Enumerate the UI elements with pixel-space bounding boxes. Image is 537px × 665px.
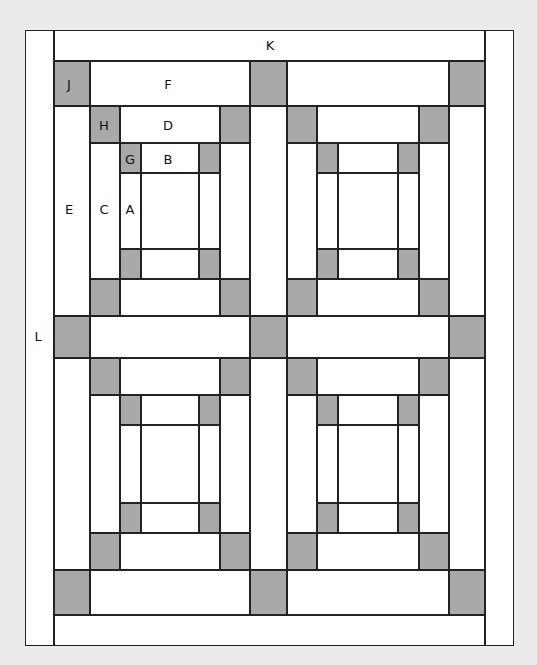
corner-g	[199, 395, 220, 425]
corner-h	[287, 358, 317, 395]
strip-c	[287, 395, 317, 533]
cornerstone-j	[449, 570, 485, 615]
corner-g	[199, 503, 220, 533]
corner-g	[120, 503, 141, 533]
strip-a	[199, 425, 220, 503]
strip-d	[120, 358, 220, 395]
strip-c	[287, 143, 317, 279]
cornerstone-j	[250, 570, 287, 615]
label-g: G	[125, 153, 135, 166]
center-square	[338, 173, 398, 249]
sashing-f	[90, 570, 250, 615]
cornerstone-j	[250, 316, 287, 358]
sashing-f	[287, 61, 449, 106]
sashing-e	[449, 358, 485, 570]
corner-g	[398, 249, 419, 279]
strip-a	[317, 173, 338, 249]
strip-c	[220, 395, 250, 533]
corner-g	[398, 395, 419, 425]
label-e: E	[65, 203, 73, 216]
corner-g	[199, 249, 220, 279]
strip-b	[338, 395, 398, 425]
strip-b	[141, 395, 199, 425]
cornerstone-j	[449, 316, 485, 358]
cornerstone-j	[449, 61, 485, 106]
strip-c	[419, 395, 449, 533]
corner-h	[419, 358, 449, 395]
border-l-right	[485, 30, 514, 646]
label-c: C	[99, 203, 108, 216]
strip-a	[317, 425, 338, 503]
cornerstone-j	[54, 570, 90, 615]
corner-h	[220, 106, 250, 143]
corner-h	[419, 533, 449, 570]
corner-h	[287, 279, 317, 316]
corner-g	[199, 143, 220, 173]
label-l: L	[34, 330, 41, 343]
strip-c	[90, 395, 120, 533]
corner-h	[90, 533, 120, 570]
corner-h	[90, 358, 120, 395]
corner-g	[398, 503, 419, 533]
strip-d	[317, 533, 419, 570]
sashing-f	[90, 316, 250, 358]
corner-h	[287, 533, 317, 570]
center-square	[338, 425, 398, 503]
strip-a	[199, 173, 220, 249]
strip-b	[141, 249, 199, 279]
strip-d	[317, 358, 419, 395]
corner-g	[317, 503, 338, 533]
sashing-e	[54, 358, 90, 570]
strip-c	[220, 143, 250, 279]
sashing-e	[449, 106, 485, 316]
corner-h	[90, 279, 120, 316]
label-k: K	[266, 39, 275, 52]
cornerstone-j	[250, 61, 287, 106]
corner-g	[398, 143, 419, 173]
label-d: D	[163, 119, 173, 132]
strip-d	[317, 279, 419, 316]
strip-c	[419, 143, 449, 279]
cornerstone-j	[54, 61, 90, 106]
strip-d	[317, 106, 419, 143]
sashing-e	[250, 106, 287, 316]
strip-d	[120, 533, 220, 570]
corner-h	[419, 279, 449, 316]
label-a: A	[126, 203, 135, 216]
label-b: B	[164, 153, 173, 166]
strip-b	[141, 503, 199, 533]
sashing-f	[287, 316, 449, 358]
center-square	[141, 173, 199, 249]
border-k-bottom	[54, 615, 485, 646]
strip-d	[120, 279, 220, 316]
corner-g	[317, 249, 338, 279]
corner-g	[120, 395, 141, 425]
sashing-f	[287, 570, 449, 615]
cornerstone-j	[54, 316, 90, 358]
strip-a	[398, 425, 419, 503]
label-h: H	[99, 119, 109, 132]
sashing-e	[250, 358, 287, 570]
label-f: F	[164, 78, 171, 91]
label-j: J	[67, 78, 71, 91]
corner-h	[220, 533, 250, 570]
strip-a	[120, 425, 141, 503]
corner-h	[419, 106, 449, 143]
corner-h	[287, 106, 317, 143]
corner-h	[220, 279, 250, 316]
corner-g	[317, 395, 338, 425]
center-square	[141, 425, 199, 503]
strip-b	[338, 503, 398, 533]
corner-g	[317, 143, 338, 173]
strip-a	[398, 173, 419, 249]
strip-b	[338, 143, 398, 173]
corner-h	[220, 358, 250, 395]
strip-b	[338, 249, 398, 279]
corner-g	[120, 249, 141, 279]
